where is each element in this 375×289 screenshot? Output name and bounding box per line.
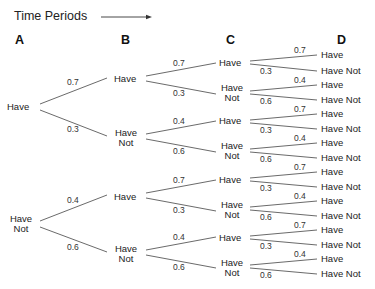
prob-label: 0.7 <box>294 46 306 55</box>
prob-label: 0.6 <box>173 263 185 272</box>
column-header-a: A <box>15 33 24 47</box>
prob-label: 0.4 <box>294 76 306 85</box>
prob-label: 0.3 <box>260 126 272 135</box>
prob-label: 0.6 <box>260 155 272 164</box>
prob-label: 0.7 <box>294 105 306 114</box>
prob-label: 0.3 <box>260 67 272 76</box>
node-d-have: Have <box>321 167 343 177</box>
node-b-have: Have <box>114 192 136 202</box>
node-d-have-not: Have Not <box>321 95 361 105</box>
prob-label: 0.4 <box>294 250 306 259</box>
prob-label: 0.7 <box>173 59 185 68</box>
prob-label: 0.3 <box>173 89 185 98</box>
node-line: Not <box>220 93 244 103</box>
prob-label: 0.4 <box>173 233 185 242</box>
node-d-have: Have <box>321 80 343 90</box>
prob-label: 0.6 <box>67 243 79 252</box>
node-c-have-not: Have Not <box>220 141 244 161</box>
column-header-b: B <box>121 33 130 47</box>
prob-label: 0.3 <box>67 125 79 134</box>
prob-label: 0.6 <box>260 97 272 106</box>
prob-label: 0.7 <box>294 221 306 230</box>
column-header-d: D <box>337 33 346 47</box>
node-line: Not <box>9 224 33 234</box>
node-b-have: Have <box>114 74 136 84</box>
node-c-have-not: Have Not <box>220 258 244 278</box>
node-a-have: Have <box>7 102 29 112</box>
column-header-c: C <box>226 33 235 47</box>
node-a-have-not: Have Not <box>9 214 33 234</box>
prob-label: 0.4 <box>294 192 306 201</box>
node-d-have: Have <box>321 254 343 264</box>
node-line: Not <box>220 151 244 161</box>
node-c-have: Have <box>219 58 241 68</box>
node-d-have-not: Have Not <box>321 153 361 163</box>
prob-label: 0.4 <box>173 117 185 126</box>
node-d-have-not: Have Not <box>321 269 361 279</box>
node-line: Not <box>114 138 138 148</box>
prob-label: 0.6 <box>173 147 185 156</box>
node-line: Not <box>114 254 138 264</box>
node-c-have: Have <box>219 233 241 243</box>
prob-label: 0.3 <box>260 242 272 251</box>
node-d-have-not: Have Not <box>321 240 361 250</box>
node-c-have-not: Have Not <box>220 83 244 103</box>
node-c-have: Have <box>219 116 241 126</box>
prob-label: 0.7 <box>67 78 79 87</box>
prob-label: 0.6 <box>260 271 272 280</box>
prob-label: 0.4 <box>67 196 79 205</box>
node-d-have: Have <box>321 50 343 60</box>
node-d-have: Have <box>321 109 343 119</box>
node-b-have-not: Have Not <box>114 244 138 264</box>
node-b-have-not: Have Not <box>114 128 138 148</box>
node-d-have-not: Have Not <box>321 211 361 221</box>
tree-lines <box>0 0 375 289</box>
node-d-have-not: Have Not <box>321 66 361 76</box>
node-d-have: Have <box>321 196 343 206</box>
node-line: Not <box>220 210 244 220</box>
prob-label: 0.3 <box>260 184 272 193</box>
prob-label: 0.7 <box>294 163 306 172</box>
prob-label: 0.6 <box>260 213 272 222</box>
node-d-have-not: Have Not <box>321 182 361 192</box>
node-c-have: Have <box>219 175 241 185</box>
prob-label: 0.7 <box>173 176 185 185</box>
node-d-have: Have <box>321 138 343 148</box>
node-c-have-not: Have Not <box>220 200 244 220</box>
node-d-have: Have <box>321 225 343 235</box>
node-line: Not <box>220 268 244 278</box>
prob-label: 0.3 <box>173 206 185 215</box>
diagram-title: Time Periods <box>14 9 87 23</box>
node-d-have-not: Have Not <box>321 124 361 134</box>
prob-label: 0.4 <box>294 134 306 143</box>
